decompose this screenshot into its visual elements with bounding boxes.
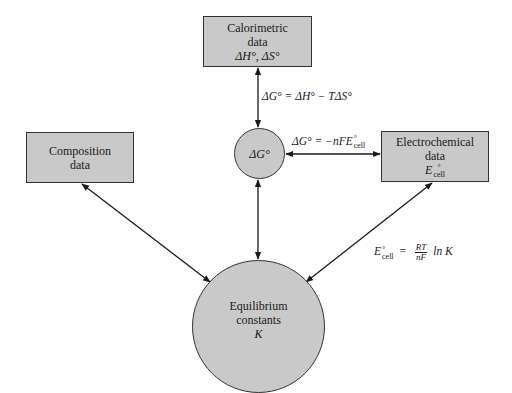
electrochemical-subtitle: data bbox=[425, 149, 445, 163]
equilibrium-title: Equilibrium bbox=[230, 299, 288, 313]
composition-data-node: Composition data bbox=[26, 132, 134, 183]
electrochemical-gibbs-equation: ΔG° = −nFE°cell bbox=[292, 135, 365, 149]
nernst-fraction: RTnF bbox=[415, 243, 428, 262]
calorimetric-data-node: Calorimetric data ΔH°, ΔS° bbox=[203, 16, 312, 67]
calorimetric-symbols: ΔH°, ΔS° bbox=[235, 49, 279, 63]
delta-g-node: ΔG° bbox=[234, 128, 285, 179]
calorimetric-subtitle: data bbox=[248, 35, 268, 49]
delta-g-label: ΔG° bbox=[249, 147, 270, 161]
equilibrium-subtitle: constants bbox=[236, 313, 281, 327]
nernst-equation: E°cell = RTnF ln K bbox=[374, 243, 453, 262]
gibbs-equation: ΔG° = ΔH° − TΔS° bbox=[262, 90, 352, 102]
composition-title: Composition bbox=[49, 144, 111, 158]
equilibrium-symbol: K bbox=[254, 327, 262, 341]
electrochemical-data-node: Electrochemical data E°cell bbox=[381, 131, 489, 182]
equilibrium-constants-node: Equilibrium constants K bbox=[192, 260, 325, 393]
electrochemical-symbol: E°cell bbox=[425, 163, 445, 178]
electrochemical-title: Electrochemical bbox=[396, 135, 474, 149]
composition-subtitle: data bbox=[70, 158, 90, 172]
calorimetric-title: Calorimetric bbox=[227, 21, 288, 35]
